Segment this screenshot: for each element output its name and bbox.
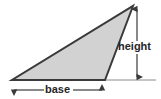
base-label: base xyxy=(45,83,70,95)
diagram-svg: height base xyxy=(0,0,161,99)
height-label: height xyxy=(118,40,151,52)
triangle-shape xyxy=(12,6,133,80)
triangle-base-height-diagram: height base xyxy=(0,0,161,99)
base-dimension: base xyxy=(14,83,102,95)
